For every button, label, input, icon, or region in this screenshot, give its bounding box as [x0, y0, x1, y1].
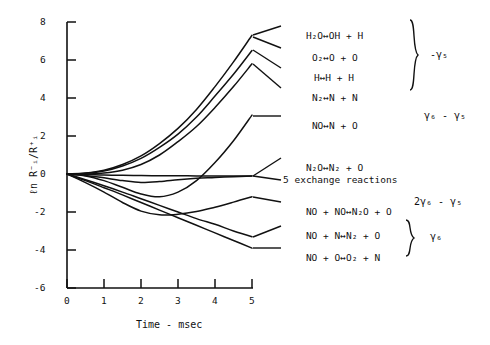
x-tick-2: 2 [138, 296, 144, 306]
legend-lhs: N₂O [306, 162, 323, 173]
curve-non [67, 174, 252, 248]
x-tick-1: 1 [101, 296, 107, 306]
y-tick-4: 4 [40, 93, 46, 103]
y-tick-6: 6 [40, 55, 46, 65]
leader-lines [253, 26, 281, 248]
legend-lhs: NO + O [306, 252, 340, 263]
x-tick-4: 4 [212, 296, 218, 306]
legend-rhs: N + N [329, 92, 358, 103]
x-axis-ticks [67, 279, 252, 288]
brace-label-gamma6-gamma5: γ₆ - γ₅ [424, 111, 466, 121]
legend-rhs: N₂O + O [352, 206, 392, 217]
brace-label-2gamma6-gamma5: 2γ₆ - γ₅ [414, 197, 462, 207]
y-axis-ticks [67, 22, 76, 288]
legend-row-no: NO↔N + O [289, 111, 358, 140]
legend-lhs: NO + N [306, 230, 340, 241]
brace-label-gamma5: -γ₅ [430, 50, 448, 60]
legend-lhs: H₂O [306, 30, 323, 41]
group-braces [406, 20, 418, 256]
curve-5ex [67, 174, 252, 215]
x-tick-5: 5 [249, 296, 255, 306]
y-tick-2: 2 [40, 131, 46, 141]
legend-lhs: NO + NO [306, 206, 346, 217]
legend-rhs: N₂ + O [329, 162, 363, 173]
legend-row-noo: NO + O↔O₂ + N [283, 243, 380, 272]
data-curves [67, 35, 252, 248]
x-tick-0: 0 [64, 296, 70, 306]
y-axis-label: ℓn R⁻ᵢ/R⁺ᵢ [28, 135, 40, 195]
figure-container: 8 6 4 2 0 -2 -4 -6 0 1 2 3 4 5 Time - ms… [0, 0, 490, 345]
legend-lhs: NO [312, 120, 323, 131]
legend-rhs: O + O [329, 52, 358, 63]
x-axis-label: Time - msec [136, 320, 202, 330]
y-tick-8: 8 [40, 17, 46, 27]
brace-gamma5 [410, 20, 418, 90]
legend-row-exchange: 5 exchange reactions [283, 175, 397, 185]
legend-rhs: N₂ + O [346, 230, 380, 241]
brace-label-gamma6: γ₆ [430, 232, 442, 242]
y-tick-neg4: -4 [34, 245, 45, 255]
y-tick-neg6: -6 [34, 283, 45, 293]
legend-row-n2: N₂↔N + N [289, 83, 358, 112]
chart-svg [0, 0, 490, 345]
brace-gamma6 [406, 220, 414, 256]
legend-lhs: N₂ [312, 92, 323, 103]
curve-no [67, 174, 252, 176]
y-tick-0: 0 [40, 169, 46, 179]
legend-rhs: O₂ + N [346, 252, 380, 263]
legend-lhs: O₂ [312, 52, 323, 63]
x-tick-3: 3 [175, 296, 181, 306]
legend-rhs: OH + H [329, 30, 363, 41]
y-tick-neg2: -2 [34, 207, 45, 217]
curve-h [67, 64, 252, 174]
legend-rhs: N + O [329, 120, 358, 131]
legend-rhs: H + H [325, 72, 354, 83]
